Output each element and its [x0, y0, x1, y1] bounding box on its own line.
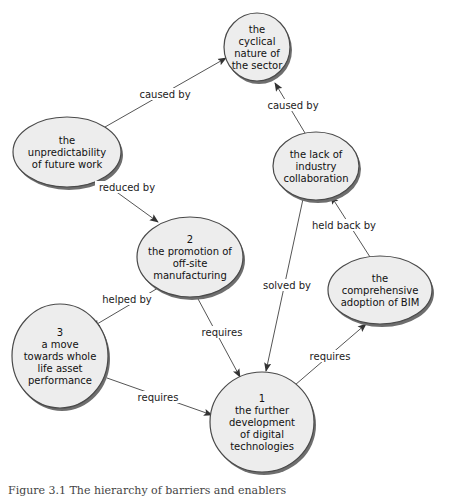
edge-label: held back by [306, 219, 382, 231]
node-label-line: off-site [173, 258, 208, 269]
node-label-line: development [229, 417, 295, 428]
node-label-line: the lack of [290, 149, 343, 160]
edge-label: solved by [258, 279, 316, 291]
node-unpredictability: theunpredictabilityof future work [13, 117, 123, 190]
node-cyclical: thecyclicalnature ofthe sector [224, 13, 292, 84]
edge-label: requires [196, 326, 248, 338]
svg-text:helped by: helped by [102, 294, 152, 305]
node-label-line: industry [296, 161, 337, 172]
node-label-line: 1 [259, 393, 265, 404]
node-label-line: manufacturing [153, 270, 227, 281]
node-label-line: the [249, 24, 265, 35]
node-label-line: 3 [57, 327, 63, 338]
node-whole-life: 3a movetowards wholelife assetperformanc… [12, 304, 110, 411]
node-promotion-offsite: 2the promotion ofoff-sitemanufacturing [137, 217, 245, 300]
svg-text:requires: requires [138, 392, 179, 403]
node-label-line: nature of [234, 48, 280, 59]
edge-label: caused by [136, 88, 194, 100]
node-label-line: cyclical [239, 36, 276, 47]
node-label-line: unpredictability [28, 147, 106, 158]
node-label-line: technologies [230, 441, 294, 452]
svg-text:reduced by: reduced by [99, 182, 155, 193]
node-label-line: of future work [32, 159, 103, 170]
figure-caption: Figure 3.1 The hierarchy of barriers and… [8, 484, 286, 497]
node-label-line: of digital [240, 429, 284, 440]
edge-label: reduced by [95, 181, 159, 193]
edge-label: requires [304, 350, 356, 362]
edge-label: requires [132, 391, 184, 403]
node-label-line: adoption of BIM [341, 297, 420, 308]
svg-text:requires: requires [202, 327, 243, 338]
svg-text:solved by: solved by [263, 280, 311, 291]
nodes-layer: thecyclicalnature ofthe sectortheunpredi… [12, 13, 434, 475]
node-label-line: the further [235, 405, 290, 416]
svg-text:requires: requires [310, 351, 351, 362]
node-label-line: collaboration [283, 173, 348, 184]
node-label-line: life asset [37, 363, 82, 374]
node-lack-collaboration: the lack ofindustrycollaboration [273, 132, 361, 203]
node-label-line: 2 [187, 234, 193, 245]
svg-text:held back by: held back by [312, 220, 376, 231]
node-label-line: comprehensive [342, 285, 419, 296]
node-adoption-bim: thecomprehensiveadoption of BIM [328, 256, 434, 327]
svg-text:caused by: caused by [139, 89, 190, 100]
edge-label: caused by [264, 99, 322, 111]
svg-text:caused by: caused by [267, 100, 318, 111]
edge-label: helped by [98, 293, 156, 305]
node-digital-tech: 1the furtherdevelopmentof digitaltechnol… [210, 372, 316, 475]
node-label-line: towards whole [24, 351, 97, 362]
node-label-line: the sector [232, 60, 283, 71]
node-label-line: the promotion of [148, 246, 232, 257]
node-label-line: performance [28, 375, 92, 386]
node-label-line: a move [41, 339, 78, 350]
node-label-line: the [372, 273, 388, 284]
node-label-line: the [59, 135, 75, 146]
